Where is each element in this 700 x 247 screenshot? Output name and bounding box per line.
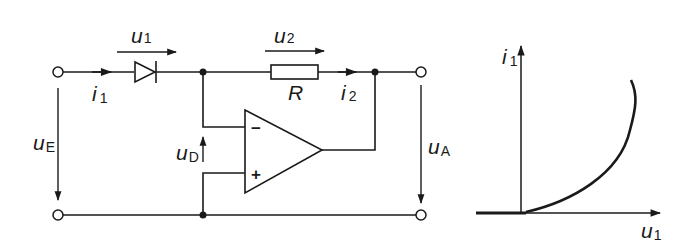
- junction-node-1: [200, 69, 207, 76]
- i2-label: i2: [341, 81, 357, 104]
- junction-ground: [200, 212, 207, 219]
- input-terminal-top: [53, 67, 63, 77]
- i1-label: i1: [92, 82, 108, 106]
- resistor-symbol: [271, 65, 318, 79]
- log-amplifier-diagram: − + u1 i1 u2 R i2 uE uD uA i1 u1: [0, 0, 700, 247]
- opamp-minus-sign: −: [251, 119, 261, 138]
- diode-characteristic-graph: i1 u1: [476, 45, 662, 243]
- uA-label: uA: [428, 135, 451, 159]
- opamp-symbol: − +: [245, 110, 322, 193]
- output-terminal-top: [416, 67, 426, 77]
- uD-label: uD: [176, 141, 199, 165]
- graph-curve: [526, 80, 635, 212]
- graph-x-label: u1: [641, 219, 662, 243]
- uE-label: uE: [33, 131, 55, 155]
- circuit-wires: [63, 72, 416, 215]
- input-terminal-bottom: [53, 210, 63, 220]
- junction-node-2: [372, 69, 379, 76]
- diode-symbol: [135, 61, 156, 83]
- u1-label: u1: [131, 24, 152, 47]
- output-terminal-bottom: [416, 210, 426, 220]
- opamp-plus-sign: +: [251, 165, 261, 184]
- graph-y-label: i1: [502, 45, 518, 69]
- resistor-label: R: [288, 81, 303, 104]
- u2-label: u2: [274, 24, 295, 47]
